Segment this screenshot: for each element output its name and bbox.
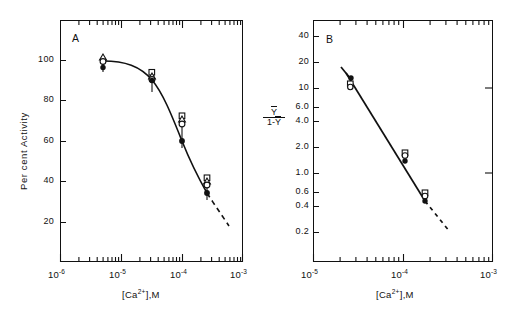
panel-b-marker-circle-open bbox=[422, 193, 428, 199]
panel-a-marker-circle-filled bbox=[179, 138, 185, 144]
panel-a-data-layer bbox=[0, 0, 253, 314]
panel-b-fit-line-dashed bbox=[425, 201, 450, 232]
panel-a-marker-circle-filled bbox=[100, 65, 105, 70]
panel-a-marker-circle-open bbox=[179, 121, 185, 127]
panel-b-marker-circle-open bbox=[402, 153, 408, 159]
panel-b-marker-circle-filled bbox=[402, 158, 407, 163]
panel-a-marker-circle-open bbox=[204, 182, 210, 188]
panel-b-marker-circle-filled bbox=[422, 198, 427, 203]
panel-b-marker-circle-open bbox=[348, 84, 353, 89]
figure-canvas: A 100 80 60 40 20 Per cent Activity bbox=[0, 0, 505, 314]
panel-b-fit-line-cap bbox=[341, 67, 350, 78]
panel-a-marker-circle-open bbox=[100, 59, 106, 65]
panel-a: A 100 80 60 40 20 Per cent Activity bbox=[0, 0, 253, 314]
panel-b-data-layer bbox=[253, 0, 505, 314]
panel-b-fit-line bbox=[346, 73, 425, 201]
panel-b-marker-circle-filled bbox=[348, 75, 353, 80]
panel-a-marker-circle-filled bbox=[204, 190, 210, 196]
panel-a-fit-curve-dashed bbox=[207, 193, 229, 226]
panel-b: B 40 20 10 6.0 4.0 2.0 1.0 0.6 0.4 0.2 Y… bbox=[253, 0, 505, 314]
panel-a-marker-circle-filled bbox=[149, 78, 154, 83]
